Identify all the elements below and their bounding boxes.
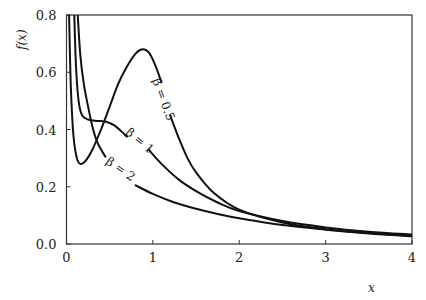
y-tick-label: 0.0 [36, 237, 57, 252]
curve-beta-0-5 [69, 15, 412, 236]
y-axis-ticks: 0.00.20.40.60.8 [36, 8, 71, 252]
curve-label-beta-0-5: β = 0.5 [150, 77, 178, 123]
y-tick-label: 0.4 [36, 123, 57, 138]
curve-label-beta-2: β = 2 [103, 154, 137, 184]
curve-label-beta-1: β = 1 [123, 125, 157, 156]
curves [69, 15, 412, 236]
chart-canvas: 01234 0.00.20.40.60.8 β = 0.5β = 1β = 2 … [0, 0, 426, 300]
x-tick-label: 4 [408, 250, 416, 265]
y-tick-label: 0.6 [36, 65, 57, 80]
y-tick-label: 0.8 [36, 8, 57, 23]
curve-segment [78, 15, 106, 157]
y-tick-label: 0.2 [36, 180, 57, 195]
x-tick-label: 0 [62, 250, 70, 265]
x-tick-label: 1 [149, 250, 157, 265]
curve-beta-2 [78, 15, 412, 236]
curve-segment [170, 115, 412, 236]
x-tick-label: 2 [235, 250, 243, 265]
x-tick-label: 3 [321, 250, 329, 265]
curve-segment [136, 185, 412, 236]
y-axis-title: f(x) [15, 29, 29, 51]
x-axis-title: x [368, 281, 375, 295]
curve-beta-1 [74, 15, 412, 235]
